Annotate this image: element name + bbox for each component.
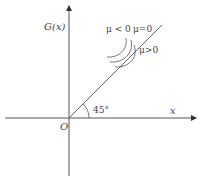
bifurcation-diagram (0, 0, 207, 183)
mu-zero-label: μ=0 (133, 25, 152, 34)
origin-label: O (60, 122, 68, 132)
curve-mu-positive (115, 45, 135, 67)
diagonal-line (69, 25, 162, 118)
x-axis-label: x (170, 106, 176, 116)
mu-negative-label: μ < 0 (106, 25, 131, 34)
curve-mu-negative (107, 38, 126, 57)
angle-arc (83, 104, 89, 118)
angle-label: 45° (93, 106, 109, 115)
mu-positive-label: μ>0 (139, 46, 158, 55)
y-axis-label: G(x) (44, 22, 65, 32)
